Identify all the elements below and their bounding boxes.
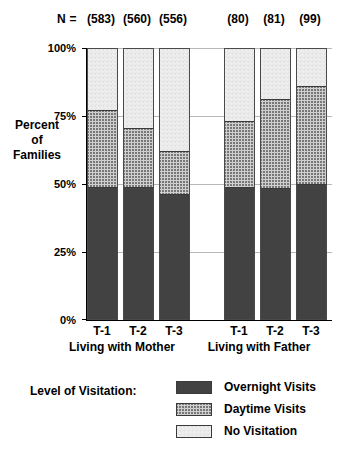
bar-segment-daytime <box>124 129 153 188</box>
legend-swatch-overnight-icon <box>176 381 212 394</box>
bar-segment-no-visitation <box>297 49 326 87</box>
bar-segment-no-visitation <box>88 49 117 111</box>
bar-segment-daytime <box>160 152 189 195</box>
sample-size-m-t3: (556) <box>153 12 193 26</box>
bar-father-t1[interactable] <box>224 48 255 320</box>
legend-title: Level of Visitation: <box>30 384 136 398</box>
legend-swatch-daytime-icon <box>176 403 212 416</box>
sample-size-f-t2: (81) <box>254 12 294 26</box>
bar-segment-overnight <box>88 188 117 319</box>
x-tick-father-t1: T-1 <box>219 324 259 338</box>
bar-father-t3[interactable] <box>296 48 327 320</box>
bar-mother-t2[interactable] <box>123 48 154 320</box>
bar-segment-daytime <box>225 122 254 188</box>
bar-segment-no-visitation <box>160 49 189 152</box>
group-label-mother: Living with Mother <box>62 340 182 354</box>
legend-label-overnight: Overnight Visits <box>224 380 316 394</box>
x-tick-mother-t1: T-1 <box>82 324 122 338</box>
bar-segment-overnight <box>297 185 326 319</box>
group-label-father: Living with Father <box>199 340 319 354</box>
y-tick-label-75: 75% <box>36 110 76 122</box>
bar-segment-daytime <box>88 111 117 188</box>
group-labels: Living with Mother Living with Father <box>0 340 343 356</box>
bar-segment-daytime <box>297 87 326 186</box>
bar-segment-overnight <box>261 189 290 319</box>
bar-segment-no-visitation <box>225 49 254 122</box>
y-tick-label-100: 100% <box>36 42 76 54</box>
stacked-bar-chart: N = (583) (560) (556) (80) (81) (99) Per… <box>0 0 343 450</box>
y-tick-label-25: 25% <box>36 246 76 258</box>
bar-mother-t1[interactable] <box>87 48 118 320</box>
sample-size-m-t1: (583) <box>81 12 121 26</box>
bar-segment-no-visitation <box>124 49 153 129</box>
bar-segment-overnight <box>124 188 153 319</box>
bar-segment-no-visitation <box>261 49 290 100</box>
x-tick-father-t3: T-3 <box>291 324 331 338</box>
x-tick-father-t2: T-2 <box>255 324 295 338</box>
bar-segment-overnight <box>160 195 189 319</box>
y-tick-label-50: 50% <box>36 178 76 190</box>
sample-size-f-t3: (99) <box>290 12 330 26</box>
x-tick-mother-t3: T-3 <box>154 324 194 338</box>
bar-segment-overnight <box>225 188 254 319</box>
bar-segment-daytime <box>261 100 290 189</box>
legend-swatch-no-visitation-icon <box>176 425 212 438</box>
bar-father-t2[interactable] <box>260 48 291 320</box>
x-tick-mother-t2: T-2 <box>118 324 158 338</box>
legend-label-no-visitation: No Visitation <box>224 424 297 438</box>
bar-mother-t3[interactable] <box>159 48 190 320</box>
x-axis-labels: T-1 T-2 T-3 T-1 T-2 T-3 <box>86 324 331 340</box>
plot-area <box>86 48 332 321</box>
sample-size-f-t1: (80) <box>218 12 258 26</box>
sample-size-m-t2: (560) <box>117 12 157 26</box>
legend-label-daytime: Daytime Visits <box>224 402 306 416</box>
legend: Level of Visitation: Overnight Visits Da… <box>30 378 330 444</box>
y-tick-label-0: 0% <box>36 314 76 326</box>
